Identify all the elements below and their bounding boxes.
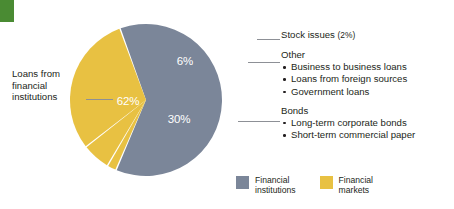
legend-label-line-2: markets — [339, 185, 373, 195]
callout-line-1: Loans from — [12, 68, 86, 80]
leader-line-bonds — [238, 121, 280, 122]
callout-stock-issues-label: Stock issues — [281, 29, 335, 40]
legend-label-financial-institutions: Financial institutions — [255, 175, 296, 195]
leader-line-stock-issues — [257, 39, 280, 40]
callout-line-3: institutions — [12, 91, 86, 103]
legend-item-financial-markets[interactable]: Financial markets — [320, 175, 373, 195]
list-item: Government loans — [281, 86, 451, 98]
spacer — [281, 41, 451, 49]
callout-bonds-list: Long-term corporate bonds Short-term com… — [281, 117, 451, 142]
legend-label-line-1: Financial — [255, 175, 296, 185]
callout-other-list: Business to business loans Loans from fo… — [281, 61, 451, 98]
accent-block — [0, 0, 14, 22]
callout-stock-issues-percent: (2%) — [338, 30, 356, 40]
leader-line-institutions — [86, 99, 113, 100]
pie-label-institutions: 62% — [117, 95, 140, 107]
callout-loans-from-financial-institutions: Loans from financial institutions — [12, 68, 86, 103]
callout-stock-issues: Stock issues (2%) — [281, 29, 451, 41]
chart-legend: Financial institutions Financial markets — [236, 175, 373, 195]
callout-panel: Stock issues (2%) Other Business to busi… — [281, 29, 451, 141]
list-item: Business to business loans — [281, 61, 451, 73]
callout-other-heading: Other — [281, 49, 451, 61]
legend-label-line-2: institutions — [255, 185, 296, 195]
legend-item-financial-institutions[interactable]: Financial institutions — [236, 175, 296, 195]
list-item: Short-term commercial paper — [281, 129, 451, 141]
callout-line-2: financial — [12, 80, 86, 92]
pie-label-other: 6% — [177, 55, 193, 67]
legend-label-financial-markets: Financial markets — [339, 175, 373, 195]
callout-bonds-heading: Bonds — [281, 105, 451, 117]
leader-line-other — [248, 62, 280, 63]
chart-canvas: 62% 6% 30% Loans from financial institut… — [0, 0, 454, 209]
spacer — [281, 98, 451, 105]
legend-swatch-financial-institutions — [236, 176, 249, 189]
list-item: Long-term corporate bonds — [281, 117, 451, 129]
pie-label-bonds: 30% — [168, 113, 191, 125]
callout-bonds: Bonds Long-term corporate bonds Short-te… — [281, 105, 451, 142]
legend-swatch-financial-markets — [320, 176, 333, 189]
legend-label-line-1: Financial — [339, 175, 373, 185]
callout-other: Other Business to business loans Loans f… — [281, 49, 451, 98]
callout-stock-issues-heading: Stock issues (2%) — [281, 29, 451, 41]
list-item: Loans from foreign sources — [281, 73, 451, 85]
